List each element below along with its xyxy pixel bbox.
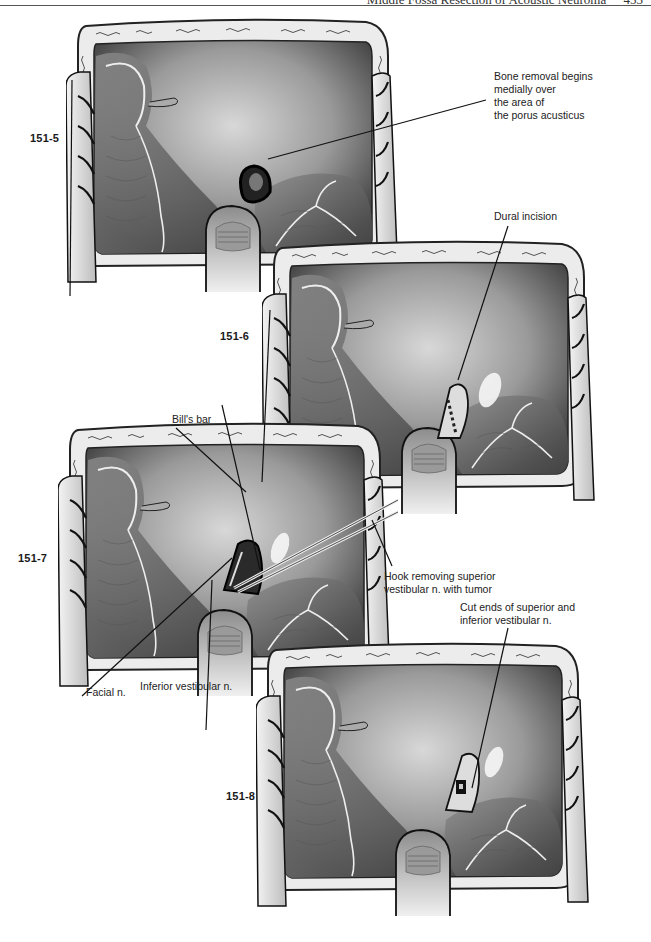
label-line: inferior vestibular n. xyxy=(460,614,575,627)
label-dural-incision: Dural incision xyxy=(494,210,557,223)
label-line: Facial n. xyxy=(86,686,126,699)
label-cut-ends: Cut ends of superior and inferior vestib… xyxy=(460,601,575,627)
label-bone-removal: Bone removal begins medially over the ar… xyxy=(494,70,593,122)
label-hook-removing: Hook removing superior vestibular n. wit… xyxy=(384,570,495,596)
label-line: Bone removal begins xyxy=(494,70,593,83)
surgical-illustration xyxy=(256,640,596,930)
label-line: medially over xyxy=(494,83,593,96)
label-line: vestibular n. with tumor xyxy=(384,583,495,596)
figure-number: 151-6 xyxy=(220,330,249,342)
figure-number: 151-7 xyxy=(18,552,47,564)
label-line: the area of xyxy=(494,96,593,109)
running-head: Middle Fossa Resection of Acoustic Neuro… xyxy=(0,0,651,10)
running-head-text: Middle Fossa Resection of Acoustic Neuro… xyxy=(367,0,643,8)
label-line: the porus acusticus xyxy=(494,109,593,122)
label-bills-bar: Bill's bar xyxy=(172,413,211,426)
label-line: Cut ends of superior and xyxy=(460,601,575,614)
label-line: Bill's bar xyxy=(172,413,211,426)
running-head-title: Middle Fossa Resection of Acoustic Neuro… xyxy=(367,0,606,7)
label-line: Inferior vestibular n. xyxy=(140,680,232,693)
page-number: 455 xyxy=(624,0,644,7)
label-inferior-vestibular-nerve: Inferior vestibular n. xyxy=(140,680,232,693)
label-line: Hook removing superior xyxy=(384,570,495,583)
label-facial-nerve: Facial n. xyxy=(86,686,126,699)
figure-151-8: 151-8 xyxy=(256,640,596,930)
figure-number: 151-8 xyxy=(226,790,255,802)
figure-number: 151-5 xyxy=(30,132,59,144)
label-line: Dural incision xyxy=(494,210,557,223)
